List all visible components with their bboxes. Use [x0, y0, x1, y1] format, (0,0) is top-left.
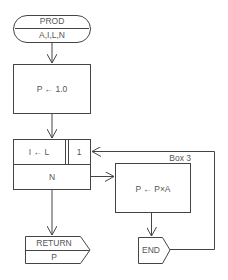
end-text: END: [138, 246, 164, 255]
return-label: RETURN: [25, 239, 83, 248]
start-name: PROD: [13, 17, 91, 26]
return-value: P: [25, 253, 83, 262]
loop-limit: N: [13, 173, 91, 182]
flowchart-canvas: [0, 0, 228, 280]
body-label: Box 3: [165, 154, 191, 163]
loop-step: 1: [68, 148, 90, 157]
loop-init: I ← L: [13, 148, 65, 157]
body-text: P ← P×A: [115, 185, 191, 194]
start-params: A,I,L,N: [13, 31, 91, 40]
init-text: P ← 1.0: [13, 85, 91, 94]
loop-back-line: [92, 152, 215, 250]
